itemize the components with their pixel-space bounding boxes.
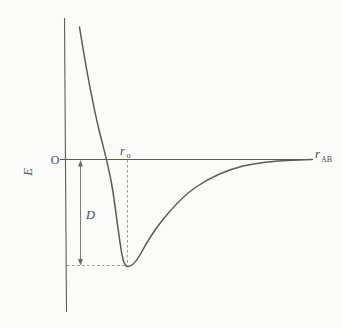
- equilibrium-distance-label: r: [120, 144, 125, 158]
- dissociation-energy-arrow-head-down: [78, 259, 83, 266]
- potential-energy-diagram: E O r o r AB D: [0, 0, 342, 328]
- equilibrium-distance-subscript: o: [127, 151, 131, 160]
- x-axis-label: r: [315, 147, 320, 161]
- x-axis-subscript: AB: [321, 155, 332, 164]
- dissociation-energy-arrow-head-up: [78, 160, 83, 167]
- origin-label: O: [51, 153, 60, 167]
- dissociation-energy-label: D: [85, 208, 95, 222]
- y-axis: [65, 18, 67, 312]
- y-axis-label: E: [21, 168, 35, 177]
- potential-energy-curve: [80, 27, 313, 267]
